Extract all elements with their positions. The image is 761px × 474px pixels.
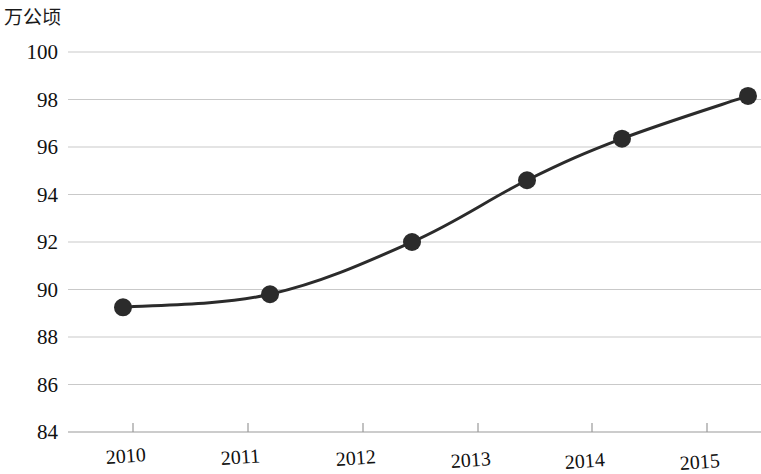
x-axis-tick-label: 2012	[335, 446, 377, 472]
data-point-marker	[261, 285, 279, 303]
line-path	[123, 96, 748, 307]
y-axis-tick-label: 96	[0, 135, 58, 160]
x-axis-tick-label: 2010	[105, 443, 147, 469]
x-axis-tick-label: 2014	[564, 448, 606, 474]
y-axis-tick-label: 84	[0, 420, 58, 445]
data-point-marker	[114, 298, 132, 316]
y-axis-tick-label: 98	[0, 87, 58, 112]
data-point-marker	[739, 87, 757, 105]
y-axis-tick-label: 100	[0, 40, 58, 65]
y-axis-tick-label: 92	[0, 230, 58, 255]
line-chart: 万公顷 8486889092949698100 2010201120122013…	[0, 0, 761, 474]
x-axis-tick-label: 2013	[450, 447, 492, 473]
chart-canvas	[0, 0, 761, 474]
plot-area	[0, 0, 761, 474]
data-point-marker	[613, 130, 631, 148]
y-axis-tick-label: 86	[0, 372, 58, 397]
y-axis-tick-label: 88	[0, 325, 58, 350]
x-axis-tick-label: 2015	[679, 449, 721, 474]
x-axis-ticks	[133, 423, 707, 432]
x-axis-tick-label: 2011	[220, 444, 261, 470]
series-markers	[114, 87, 757, 316]
data-point-marker	[518, 171, 536, 189]
series-line	[123, 96, 748, 307]
y-axis-tick-label: 90	[0, 277, 58, 302]
y-axis-tick-label: 94	[0, 182, 58, 207]
data-point-marker	[403, 233, 421, 251]
